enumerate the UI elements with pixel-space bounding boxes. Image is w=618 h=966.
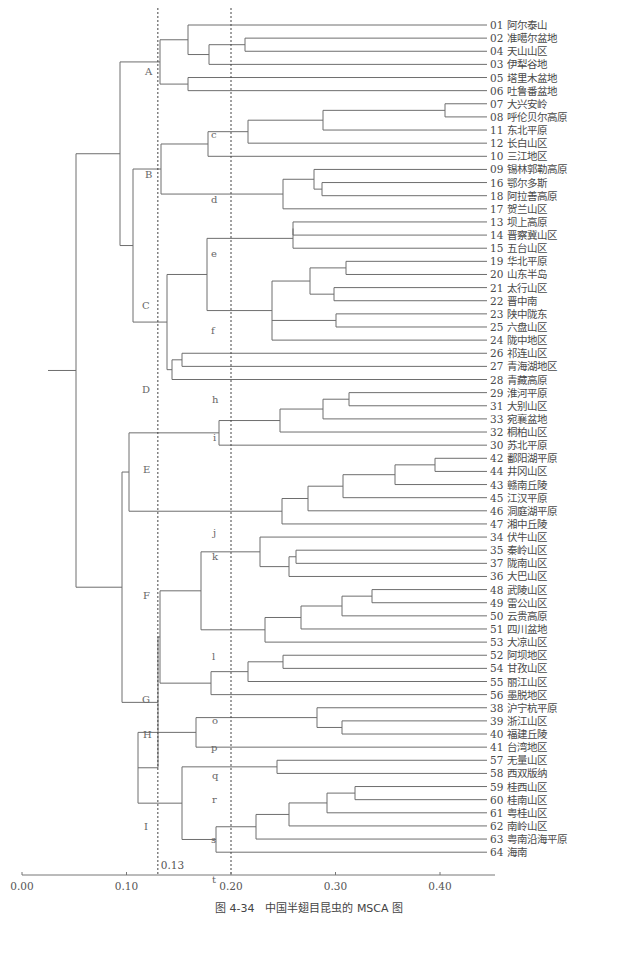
axis-tick-label: 0.10 [115, 880, 138, 892]
group-label: F [143, 590, 150, 601]
group-label: H [143, 729, 152, 740]
leaf-label: 06 吐鲁番盆地 [490, 85, 558, 97]
leaf-label: 63 粤南沿海平原 [490, 833, 567, 845]
group-label: D [142, 384, 150, 395]
figure-caption: 图 4-34 中国半翅目昆虫的 MSCA 图 [0, 899, 618, 915]
leaf-label: 50 云贵高原 [490, 610, 547, 622]
axis-tick-label: 0.40 [428, 880, 451, 892]
leaf-label: 24 陇中地区 [490, 334, 547, 346]
group-label: j [212, 527, 216, 538]
group-label: G [142, 694, 150, 705]
leaf-label: 44 井冈山区 [490, 465, 547, 477]
leaf-label: 31 大别山区 [490, 400, 547, 412]
leaf-label: 20 山东半岛 [490, 268, 547, 280]
group-label: C [142, 300, 150, 311]
group-label: o [212, 715, 218, 726]
leaf-label: 08 呼伦贝尔高原 [490, 111, 567, 123]
leaf-label: 57 无量山区 [490, 754, 547, 766]
leaf-label: 33 宛襄盆地 [490, 413, 548, 425]
leaf-label: 42 鄱阳湖平原 [490, 452, 557, 464]
leaf-label: 41 台湾地区 [490, 741, 547, 753]
leaf-label: 10 三江地区 [490, 150, 547, 162]
leaf-label: 54 甘孜山区 [490, 662, 547, 674]
leaf-label: 51 四川盆地 [490, 623, 548, 635]
leaf-label: 18 阿拉善高原 [490, 190, 557, 202]
leaf-label: 27 青海湖地区 [490, 360, 557, 372]
group-label: r [212, 794, 217, 805]
group-label: i [213, 432, 216, 443]
x-axis: 0.000.100.200.300.40 [10, 872, 495, 892]
dendrogram-figure: 0.13 01 阿尔泰山02 准噶尔盆地04 天山山区03 伊犁谷地05 塔里木… [0, 0, 618, 966]
group-label: t [212, 874, 216, 885]
leaf-label: 46 洞庭湖平原 [490, 505, 557, 517]
leaf-label: 09 锡林郭勒高原 [490, 163, 567, 175]
leaf-label: 22 晋中南 [490, 295, 537, 307]
group-label: h [212, 394, 219, 405]
leaf-label: 17 贺兰山区 [490, 203, 547, 215]
cut-line-label: 0.13 [161, 859, 184, 871]
group-label: s [211, 834, 216, 845]
leaf-labels: 01 阿尔泰山02 准噶尔盆地04 天山山区03 伊犁谷地05 塔里木盆地06 … [490, 19, 567, 858]
leaf-label: 43 赣南丘陵 [490, 479, 548, 491]
leaf-label: 53 大凉山区 [490, 636, 547, 648]
leaf-label: 05 塔里木盆地 [490, 72, 558, 84]
leaf-label: 40 福建丘陵 [490, 728, 548, 740]
group-label: I [144, 821, 148, 832]
group-label: l [212, 651, 215, 662]
leaf-label: 37 陇南山区 [490, 557, 547, 569]
leaf-label: 25 六盘山区 [490, 321, 547, 333]
leaf-label: 03 伊犁谷地 [490, 58, 548, 70]
leaf-label: 32 桐柏山区 [490, 426, 547, 438]
leaf-label: 52 阿坝地区 [490, 649, 547, 661]
leaf-label: 62 南岭山区 [490, 820, 547, 832]
group-label: d [211, 194, 218, 205]
group-label: A [144, 66, 153, 77]
leaf-label: 01 阿尔泰山 [490, 19, 547, 31]
group-label: k [212, 551, 219, 562]
leaf-label: 64 海南 [490, 846, 527, 858]
leaf-label: 35 秦岭山区 [490, 544, 547, 556]
leaf-label: 12 长白山区 [490, 137, 547, 149]
leaf-label: 29 淮河平原 [490, 387, 547, 399]
leaf-label: 34 伏牛山区 [490, 531, 547, 543]
leaf-label: 60 桂南山区 [490, 794, 547, 806]
leaf-label: 47 湘中丘陵 [490, 518, 548, 530]
leaf-label: 04 天山山区 [490, 45, 547, 57]
leaf-label: 07 大兴安岭 [490, 98, 548, 110]
leaf-label: 28 青藏高原 [490, 374, 547, 386]
cut-lines: 0.13 [158, 8, 231, 875]
dendrogram-branches [48, 25, 487, 852]
group-label: f [211, 325, 216, 336]
group-label: e [211, 248, 217, 259]
leaf-label: 15 五台山区 [490, 242, 547, 254]
axis-tick-label: 0.30 [324, 880, 347, 892]
group-label: p [211, 742, 217, 753]
leaf-label: 36 大巴山区 [490, 570, 547, 582]
leaf-label: 21 太行山区 [490, 282, 547, 294]
leaf-label: 26 祁连山区 [490, 347, 547, 359]
axis-tick-label: 0.00 [10, 880, 33, 892]
leaf-label: 30 苏北平原 [490, 439, 547, 451]
group-label: q [212, 770, 219, 781]
leaf-label: 02 准噶尔盆地 [490, 32, 558, 44]
group-labels: ABCDEFGHIcdefhijklopqrst [142, 66, 219, 885]
leaf-label: 13 坝上高原 [490, 216, 547, 228]
leaf-label: 23 陕中陇东 [490, 308, 547, 320]
leaf-label: 58 西双版纳 [490, 767, 547, 779]
group-label: c [211, 129, 217, 140]
group-label: B [145, 169, 152, 180]
leaf-label: 38 沪宁杭平原 [490, 702, 557, 714]
leaf-label: 48 武陵山区 [490, 584, 547, 596]
axis-tick-label: 0.20 [219, 880, 242, 892]
leaf-label: 55 丽江山区 [490, 676, 547, 688]
leaf-label: 59 桂西山区 [490, 781, 547, 793]
leaf-label: 49 雷公山区 [490, 597, 547, 609]
leaf-label: 39 浙江山区 [490, 715, 547, 727]
leaf-label: 61 粤桂山区 [490, 807, 547, 819]
leaf-label: 14 晋察冀山区 [490, 229, 557, 241]
leaf-label: 45 江汉平原 [490, 492, 547, 504]
leaf-label: 56 墨脱地区 [490, 689, 547, 701]
leaf-label: 19 华北平原 [490, 255, 547, 267]
leaf-label: 11 东北平原 [490, 124, 547, 136]
leaf-label: 16 鄂尔多斯 [490, 177, 548, 189]
